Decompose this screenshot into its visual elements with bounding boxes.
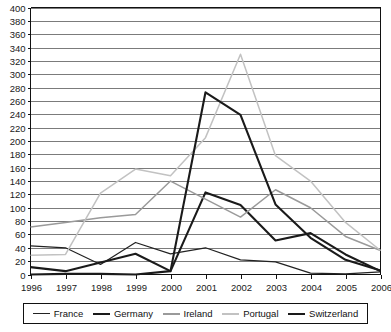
series-line-switzerland <box>31 92 381 274</box>
plot-area: 0204060801001201401601802002202402602803… <box>0 0 391 300</box>
x-tick-label: 1998 <box>91 282 112 293</box>
line-chart: 0204060801001201401601802002202402602803… <box>0 0 391 332</box>
x-tick-label: 2001 <box>196 282 217 293</box>
y-tick-label: 180 <box>10 149 26 160</box>
legend-swatch-france <box>33 313 50 314</box>
legend-label-portugal: Portugal <box>243 309 278 319</box>
y-tick-label: 60 <box>15 229 26 240</box>
axis-tickmarks <box>28 9 382 279</box>
series-lines <box>31 54 381 274</box>
legend-label-france: France <box>54 309 84 319</box>
x-tick-label: 1999 <box>126 282 147 293</box>
legend-swatch-ireland <box>163 313 180 315</box>
legend-label-ireland: Ireland <box>184 309 213 319</box>
y-tick-label: 40 <box>15 243 26 254</box>
x-tick-label: 1996 <box>21 282 42 293</box>
y-tick-label: 120 <box>10 189 26 200</box>
y-tick-label: 260 <box>10 96 26 107</box>
y-tick-label: 280 <box>10 83 26 94</box>
y-tick-label: 80 <box>15 216 26 227</box>
y-axis-tick-labels: 0204060801001201401601802002202402602803… <box>10 3 26 281</box>
series-line-france <box>31 242 381 273</box>
series-line-germany <box>31 192 381 271</box>
y-tick-label: 400 <box>10 3 26 14</box>
legend-item-france: France <box>33 309 84 319</box>
legend-item-portugal: Portugal <box>222 309 278 319</box>
legend-label-switzerland: Switzerland <box>309 309 358 319</box>
x-tick-label: 2006 <box>371 282 391 293</box>
legend-swatch-switzerland <box>288 313 305 315</box>
y-tick-label: 200 <box>10 136 26 147</box>
y-tick-label: 220 <box>10 123 26 134</box>
legend-item-germany: Germany <box>93 309 153 319</box>
y-tick-label: 240 <box>10 109 26 120</box>
y-tick-label: 360 <box>10 29 26 40</box>
legend-swatch-portugal <box>222 313 239 315</box>
legend-item-switzerland: Switzerland <box>288 309 358 319</box>
y-tick-label: 380 <box>10 16 26 27</box>
y-tick-label: 100 <box>10 203 26 214</box>
x-tick-label: 2003 <box>266 282 287 293</box>
x-tick-label: 2002 <box>231 282 252 293</box>
y-tick-label: 300 <box>10 69 26 80</box>
y-tick-label: 320 <box>10 56 26 67</box>
legend-label-germany: Germany <box>114 309 153 319</box>
y-tick-label: 0 <box>20 270 25 281</box>
x-axis-tick-labels: 1996199719981999200020012002200320042005… <box>21 282 391 293</box>
x-tick-label: 2004 <box>301 282 322 293</box>
legend-item-ireland: Ireland <box>163 309 213 319</box>
y-tick-label: 160 <box>10 163 26 174</box>
x-tick-label: 2000 <box>161 282 182 293</box>
chart-legend: France Germany Ireland Portugal Switzerl… <box>23 303 368 324</box>
x-tick-label: 2005 <box>336 282 357 293</box>
y-tick-label: 140 <box>10 176 26 187</box>
y-tick-label: 340 <box>10 43 26 54</box>
y-tick-label: 20 <box>15 256 26 267</box>
x-tick-label: 1997 <box>56 282 77 293</box>
legend-swatch-germany <box>93 313 110 315</box>
